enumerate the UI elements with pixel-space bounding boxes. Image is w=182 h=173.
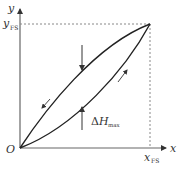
- svg-text:Δ: Δ: [91, 115, 99, 128]
- unloading-curve: [20, 24, 150, 148]
- loading-curve: [20, 24, 150, 148]
- y-fs-label: y FS: [2, 17, 18, 31]
- svg-text:y: y: [2, 17, 10, 30]
- svg-text:max: max: [108, 122, 120, 128]
- hysteresis-diagram: y x O y FS x FS Δ H max: [0, 0, 182, 173]
- delta-h-max-label: Δ H max: [91, 115, 120, 128]
- unloading-direction-arrow-icon: [42, 99, 50, 108]
- x-fs-label: x FS: [144, 151, 159, 164]
- svg-text:FS: FS: [151, 157, 159, 164]
- y-axis-label: y: [7, 2, 15, 15]
- svg-text:FS: FS: [10, 24, 18, 31]
- origin-label: O: [6, 143, 15, 156]
- x-axis-label: x: [170, 142, 177, 155]
- svg-text:x: x: [144, 151, 151, 164]
- loading-direction-arrow-icon: [118, 70, 127, 82]
